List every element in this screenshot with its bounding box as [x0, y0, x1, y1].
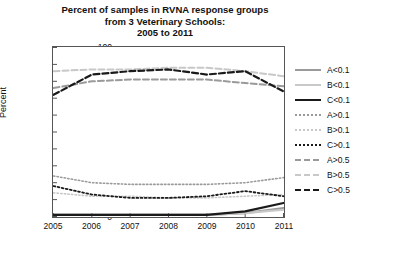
legend-swatch-icon [295, 170, 321, 180]
legend-label: B<0.1 [327, 80, 349, 90]
x-tick-label: 2010 [230, 221, 262, 231]
legend-label: C>0.1 [327, 140, 350, 150]
chart-title-line-2: from 3 Veterinary Schools: [40, 16, 290, 28]
legend-item[interactable]: C>0.5 [295, 182, 399, 197]
series-line-a-0-1 [54, 176, 284, 184]
x-tick-label: 2008 [153, 221, 185, 231]
chart-legend: A<0.1B<0.1C<0.1A>0.1B>0.1C>0.1A>0.5B>0.5… [295, 62, 399, 197]
legend-label: C<0.1 [327, 95, 350, 105]
legend-swatch-icon [295, 185, 321, 195]
legend-swatch-icon [295, 95, 321, 105]
legend-label: B>0.1 [327, 125, 349, 135]
legend-swatch-icon [295, 155, 321, 165]
legend-item[interactable]: A>0.5 [295, 152, 399, 167]
y-axis-label: Percent [0, 87, 8, 118]
x-tick-label: 2009 [191, 221, 223, 231]
legend-swatch-icon [295, 110, 321, 120]
legend-label: C>0.5 [327, 185, 350, 195]
chart-title-line-1: Percent of samples in RVNA response grou… [40, 4, 290, 16]
x-tick-label: 2007 [114, 221, 146, 231]
legend-item[interactable]: C<0.1 [295, 92, 399, 107]
chart-title-line-3: 2005 to 2011 [40, 27, 290, 39]
series-lines [53, 47, 284, 217]
legend-item[interactable]: A>0.1 [295, 107, 399, 122]
legend-swatch-icon [295, 140, 321, 150]
legend-item[interactable]: C>0.1 [295, 137, 399, 152]
legend-label: A<0.1 [327, 65, 349, 75]
x-tick-label: 2005 [37, 221, 69, 231]
legend-item[interactable]: A<0.1 [295, 62, 399, 77]
legend-item[interactable]: B<0.1 [295, 77, 399, 92]
legend-swatch-icon [295, 80, 321, 90]
legend-item[interactable]: B>0.5 [295, 167, 399, 182]
chart-title: Percent of samples in RVNA response grou… [40, 4, 290, 39]
legend-item[interactable]: B>0.1 [295, 122, 399, 137]
legend-label: B>0.5 [327, 170, 349, 180]
chart-container: Percent of samples in RVNA response grou… [0, 0, 400, 261]
x-tick-label: 2006 [76, 221, 108, 231]
series-line-c-0-5 [54, 69, 284, 94]
x-tick-label: 2011 [268, 221, 300, 231]
legend-label: A>0.1 [327, 110, 349, 120]
series-line-a-0-5 [54, 80, 284, 88]
plot-area [52, 46, 285, 218]
legend-label: A>0.5 [327, 155, 349, 165]
legend-swatch-icon [295, 125, 321, 135]
legend-swatch-icon [295, 65, 321, 75]
